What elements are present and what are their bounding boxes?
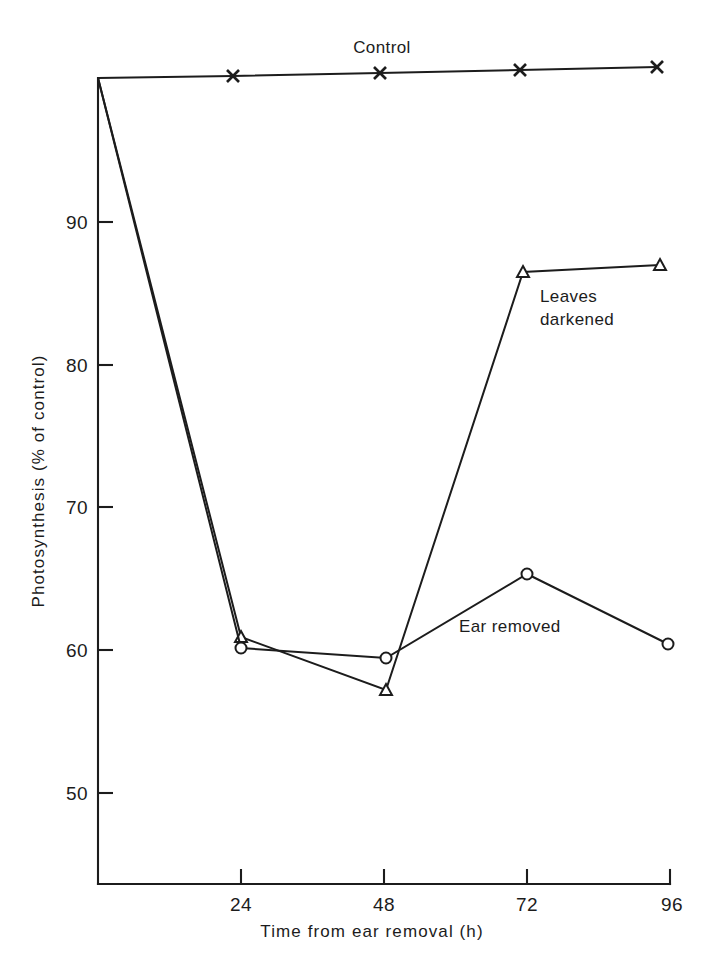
y-tick-label-60: 60 (66, 640, 88, 661)
x-tick-label-24: 24 (230, 894, 252, 915)
series-ear-removed (98, 78, 674, 664)
line-chart: 90 80 70 60 50 24 48 72 96 (0, 0, 714, 974)
x-tick-marks (241, 869, 527, 884)
annotation-leaves: Leaves (540, 287, 597, 306)
marker-circle-48 (381, 653, 392, 664)
x-tick-label-72: 72 (516, 894, 538, 915)
x-tick-label-48: 48 (373, 894, 395, 915)
figure-container: 90 80 70 60 50 24 48 72 96 (0, 0, 714, 974)
annotation-darkened: darkened (540, 310, 614, 329)
marker-circle-24 (236, 643, 247, 654)
series-ear-removed-line (98, 78, 668, 658)
y-tick-label-70: 70 (66, 497, 88, 518)
x-axis-title: Time from ear removal (h) (260, 922, 483, 941)
x-tick-label-96: 96 (661, 894, 683, 915)
y-tick-labels: 90 80 70 60 50 (66, 212, 88, 804)
y-tick-label-50: 50 (66, 783, 88, 804)
series-annotations: Control Leaves darkened Ear removed (353, 38, 614, 636)
series-control (98, 61, 663, 82)
series-ear-removed-markers (236, 569, 674, 664)
marker-circle-96 (663, 639, 674, 650)
y-axis-title: Photosynthesis (% of control) (29, 355, 48, 608)
y-tick-marks (98, 222, 113, 793)
annotation-control: Control (353, 38, 411, 57)
annotation-ear-removed: Ear removed (459, 617, 561, 636)
y-tick-label-80: 80 (66, 355, 88, 376)
series-leaves-darkened (98, 78, 666, 695)
axes (98, 78, 670, 884)
x-tick-labels: 24 48 72 96 (230, 894, 683, 915)
marker-circle-72 (522, 569, 533, 580)
y-tick-label-90: 90 (66, 212, 88, 233)
